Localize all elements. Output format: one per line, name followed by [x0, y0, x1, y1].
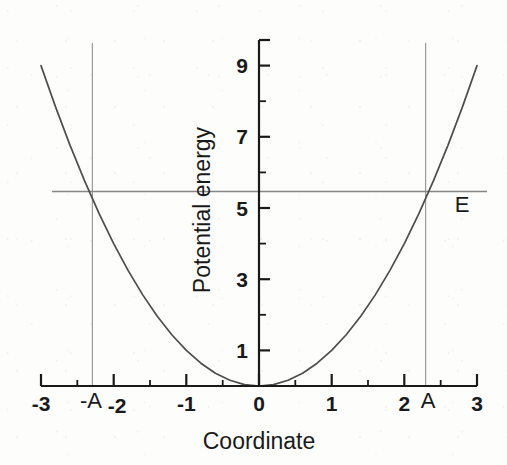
y-tick-label: 5	[236, 197, 248, 220]
energy-level-label: E	[455, 192, 470, 217]
y-tick-label: 7	[236, 125, 248, 148]
x-tick-label: -3	[32, 392, 51, 415]
x-tick-label: 2	[398, 392, 410, 415]
y-tick-label: 9	[236, 54, 248, 77]
x-tick-label: 1	[326, 392, 338, 415]
negative-amplitude-label: -A	[80, 388, 102, 413]
x-tick-label: 3	[471, 392, 483, 415]
potential-energy-chart: -3 -2 -1 0 1 2 3 -A A	[0, 0, 507, 465]
y-tick-label: 1	[236, 339, 248, 362]
x-axis-title: Coordinate	[203, 428, 316, 454]
y-tick-label: 3	[236, 268, 248, 291]
x-tick-label: -1	[177, 392, 196, 415]
x-tick-label: -2	[108, 394, 127, 417]
chart-canvas: -3 -2 -1 0 1 2 3 -A A	[0, 0, 507, 465]
positive-amplitude-label: A	[421, 388, 436, 413]
y-axis-title: Potential energy	[189, 126, 215, 293]
x-tick-label: 0	[253, 392, 265, 415]
